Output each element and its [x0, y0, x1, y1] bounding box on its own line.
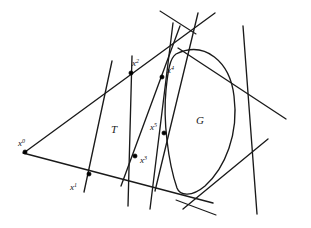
- figure-background: [0, 0, 311, 228]
- cutting-plane-figure: x0 x1 x2 x3 x4 x5 T G: [0, 0, 311, 228]
- label-set-G: G: [196, 114, 204, 126]
- figure-canvas: x0 x1 x2 x3 x4 x5 T G: [0, 0, 311, 228]
- iterate-point-x1: [87, 172, 91, 176]
- iterate-point-x5: [162, 131, 166, 135]
- iterate-point-x0: [23, 150, 27, 154]
- iterate-point-x4: [160, 75, 164, 79]
- iterate-point-x3: [133, 154, 137, 158]
- label-polytope-T: T: [111, 123, 118, 135]
- iterate-point-x2: [129, 71, 133, 75]
